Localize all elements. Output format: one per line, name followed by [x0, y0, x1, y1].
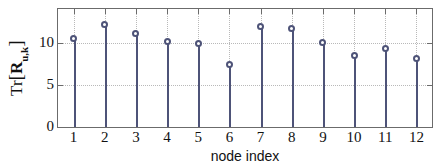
data-point-marker [288, 25, 295, 32]
x-axis-tick-top [136, 9, 137, 14]
x-axis-tick-label: 11 [372, 130, 398, 145]
plot-inner [58, 9, 432, 127]
y-axis-title-matrix-symbol: R [7, 62, 26, 74]
x-axis-tick-label: 8 [279, 130, 305, 145]
x-axis-tick-top [167, 9, 168, 14]
x-axis-tick-label: 5 [185, 130, 211, 145]
x-axis-tick-label: 2 [92, 130, 118, 145]
stem-line [323, 42, 325, 127]
y-axis-tick-right [427, 127, 432, 128]
y-axis-tick [58, 85, 63, 86]
stem-line [74, 38, 76, 127]
x-axis-tick-label: 4 [154, 130, 180, 145]
y-axis-tick-right [427, 85, 432, 86]
y-axis-title-container: Tr[Ru,k] [0, 0, 34, 136]
data-point-marker [351, 52, 358, 59]
y-axis-title: Tr[Ru,k] [6, 40, 28, 95]
stem-line [354, 56, 356, 127]
x-axis-tick-top [198, 9, 199, 14]
y-axis-tick [58, 127, 63, 128]
x-axis-tick-labels: 123456789101112 [57, 130, 433, 150]
x-axis-tick-label: 12 [403, 130, 429, 145]
y-axis-tick-label: 10 [34, 35, 54, 50]
stem-line [198, 43, 200, 127]
data-point-marker [413, 55, 420, 62]
x-axis-tick-top [354, 9, 355, 14]
x-axis-tick-top [74, 9, 75, 14]
stem-line [416, 58, 418, 127]
x-axis-tick-top [105, 9, 106, 14]
x-axis-tick-top [292, 9, 293, 14]
x-axis-tick-label: 10 [341, 130, 367, 145]
stem-line [136, 33, 138, 127]
x-axis-tick-label: 9 [310, 130, 336, 145]
y-axis-tick-label: 5 [34, 77, 54, 92]
x-axis-tick-label: 1 [61, 130, 87, 145]
data-point-marker [164, 38, 171, 45]
y-axis-tick [58, 43, 63, 44]
y-axis-title-close-bracket: ] [5, 40, 26, 46]
gridline-horizontal [58, 43, 432, 44]
x-axis-tick-label: 7 [248, 130, 274, 145]
stem-line [105, 25, 107, 127]
stem-line [292, 29, 294, 127]
x-axis-tick-label: 3 [123, 130, 149, 145]
x-axis-tick-top [416, 9, 417, 14]
y-axis-tick-labels: 0510 [32, 0, 54, 167]
gridline-horizontal [58, 85, 432, 86]
data-point-marker [195, 40, 202, 47]
data-point-marker [70, 35, 77, 42]
x-axis-title: node index [57, 149, 433, 163]
x-axis-tick-top [385, 9, 386, 14]
y-axis-title-function: Tr [7, 80, 26, 95]
x-axis-tick-top [229, 9, 230, 14]
y-axis-tick-right [427, 43, 432, 44]
stem-line [167, 41, 169, 127]
x-axis-tick-top [261, 9, 262, 14]
stem-line [261, 27, 263, 127]
stem-line [385, 48, 387, 127]
data-point-marker [319, 39, 326, 46]
x-axis-tick-top [323, 9, 324, 14]
data-point-marker [101, 21, 108, 28]
data-point-marker [226, 61, 233, 68]
stem-plot-figure: Tr[Ru,k] 0510 123456789101112 node index [0, 0, 447, 167]
data-point-marker [382, 45, 389, 52]
x-axis-tick-label: 6 [216, 130, 242, 145]
stem-line [229, 64, 231, 127]
data-point-marker [257, 23, 264, 30]
data-point-marker [132, 30, 139, 37]
y-axis-title-subscript: u,k [18, 47, 30, 62]
plot-area [57, 8, 433, 128]
y-axis-title-open-bracket: [ [5, 74, 26, 80]
y-axis-tick-label: 0 [34, 119, 54, 134]
